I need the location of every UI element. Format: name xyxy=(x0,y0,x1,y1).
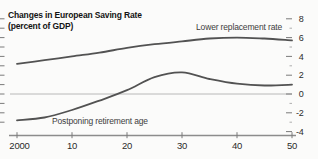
y-tick-label: 4 xyxy=(299,52,304,62)
saving-rate-figure: 86420-2-420001020304050 Changes in Europ… xyxy=(0,0,318,159)
y-axis-right: 86420-2-4 xyxy=(286,14,304,137)
x-tick-label: 40 xyxy=(232,140,242,151)
y-tick-label: -2 xyxy=(296,108,304,118)
series-line-lower-replacement-rate xyxy=(17,38,292,64)
x-tick-label: 20 xyxy=(122,140,132,151)
chart-title-line1: Changes in European Saving Rate xyxy=(8,10,142,21)
series-lines xyxy=(17,38,292,121)
y-tick-label: 8 xyxy=(299,14,304,24)
x-tick-label: 30 xyxy=(177,140,187,151)
y-tick-label: 2 xyxy=(299,70,304,80)
x-tick-label: 2000 xyxy=(9,140,29,151)
x-axis: 20001020304050 xyxy=(9,132,297,150)
y-tick-label: 0 xyxy=(299,89,304,99)
x-tick-label: 50 xyxy=(287,140,297,151)
y-axis-left-ticks xyxy=(0,19,5,122)
y-tick-label: -4 xyxy=(296,127,304,137)
series-label-postponing-retirement-age: Postponing retirement age xyxy=(52,116,148,126)
chart-title-line2: (percent of GDP) xyxy=(8,21,142,32)
chart-title: Changes in European Saving Rate (percent… xyxy=(8,10,142,32)
y-tick-label: 6 xyxy=(299,33,304,43)
series-label-lower-replacement-rate: Lower replacement rate xyxy=(196,22,282,32)
series-line-postponing-retirement-age xyxy=(17,72,292,120)
x-tick-label: 10 xyxy=(67,140,77,151)
